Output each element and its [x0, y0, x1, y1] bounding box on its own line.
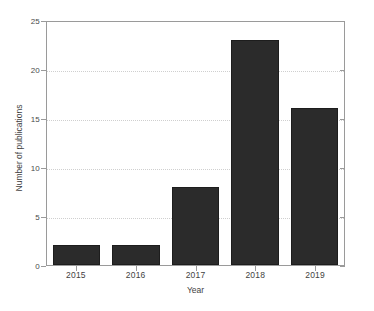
bar-chart-figure: 0510152025 20152016201720182019 Number o…: [0, 0, 374, 311]
bar-2019[interactable]: [291, 108, 339, 265]
x-axis-title: Year: [46, 285, 345, 295]
x-tick-mark: [255, 266, 256, 271]
y-tick-mark: [41, 21, 46, 22]
bar-slot: [166, 22, 225, 265]
y-tick-mark-right: [340, 70, 345, 71]
bar-slot: [106, 22, 165, 265]
y-tick-mark: [41, 70, 46, 71]
x-tick-label-2016: 2016: [106, 270, 166, 280]
x-tick-label-2019: 2019: [285, 270, 345, 280]
x-tick-label-2018: 2018: [225, 270, 285, 280]
x-tick-label-2017: 2017: [166, 270, 226, 280]
y-tick-mark-right: [340, 119, 345, 120]
y-tick-mark: [41, 217, 46, 218]
x-tick-mark: [196, 266, 197, 271]
bar-2018[interactable]: [231, 40, 279, 265]
y-axis-title: Number of publications: [14, 98, 24, 198]
y-tick-label: 0: [12, 262, 40, 271]
bar-2016[interactable]: [112, 245, 160, 265]
y-tick-mark-right: [340, 217, 345, 218]
x-tick-label-2015: 2015: [46, 270, 106, 280]
y-tick-label: 25: [12, 17, 40, 26]
bar-slot: [285, 22, 344, 265]
y-tick-mark: [41, 168, 46, 169]
x-tick-mark: [76, 266, 77, 271]
plot-area: [46, 21, 345, 266]
y-tick-mark: [41, 119, 46, 120]
bar-slot: [225, 22, 284, 265]
bar-2015[interactable]: [53, 245, 101, 265]
x-tick-mark: [315, 266, 316, 271]
bars-group: [47, 22, 344, 265]
bar-slot: [47, 22, 106, 265]
y-tick-mark-right: [340, 21, 345, 22]
x-tick-mark: [136, 266, 137, 271]
y-tick-label: 5: [12, 213, 40, 222]
y-tick-label: 20: [12, 66, 40, 75]
y-tick-mark-right: [340, 168, 345, 169]
y-tick-mark-right: [340, 266, 345, 267]
bar-2017[interactable]: [172, 187, 220, 265]
y-tick-mark: [41, 266, 46, 267]
